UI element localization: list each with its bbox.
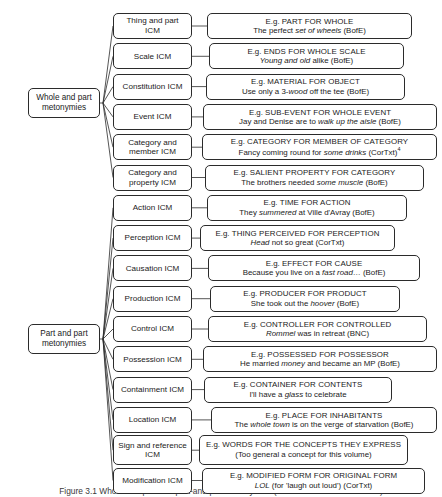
sentence-pre: The brothers needed bbox=[241, 178, 316, 187]
icm-label-line1: Possession ICM bbox=[123, 355, 181, 365]
example-node-11[interactable]: E.g. POSSESSED FOR POSSESSORHe married m… bbox=[203, 346, 437, 372]
icm-node-category-and[interactable]: Category andproperty ICM bbox=[113, 165, 192, 191]
example-prefix: E.g. bbox=[266, 17, 282, 26]
example-relation: E.g. EFFECT FOR CAUSE bbox=[266, 259, 363, 268]
example-relation-text: PLACE FOR INHABITANTS bbox=[282, 411, 383, 420]
sentence-italic: walk up the aisle bbox=[318, 117, 376, 126]
sentence-italic: fast road bbox=[322, 268, 353, 277]
icm-node-thing-and-part[interactable]: Thing and partICM bbox=[113, 13, 192, 39]
example-prefix: E.g. bbox=[231, 137, 247, 146]
root-node-whole-and-part[interactable]: Whole and partmetonymies bbox=[28, 88, 100, 118]
sentence-post: … (BofE) bbox=[353, 268, 385, 277]
icm-node-modification-icm[interactable]: Modification ICM bbox=[113, 468, 192, 494]
icm-node-causation-icm[interactable]: Causation ICM bbox=[113, 255, 192, 281]
example-node-9[interactable]: E.g. PRODUCER FOR PRODUCTShe took out th… bbox=[210, 286, 400, 312]
example-relation-text: SALIENT PROPERTY FOR CATEGORY bbox=[250, 168, 396, 177]
example-node-15[interactable]: E.g. MODIFIED FORM FOR ORIGINAL FORMLOL … bbox=[202, 468, 425, 494]
icm-label-line1: Sign and reference bbox=[118, 441, 186, 451]
sentence-italic: glass bbox=[285, 390, 303, 399]
example-sentence: Young and old alike (BofE) bbox=[260, 56, 353, 65]
sentence-italic: some drinks bbox=[324, 148, 367, 157]
example-node-7[interactable]: E.g. THING PERCEIVED FOR PERCEPTIONHead … bbox=[200, 225, 395, 251]
icm-node-location-icm[interactable]: Location ICM bbox=[113, 407, 192, 433]
icm-label-line1: Category and bbox=[128, 168, 177, 178]
icm-label-line2: member ICM bbox=[129, 147, 176, 157]
icm-node-possession-icm[interactable]: Possession ICM bbox=[113, 346, 192, 372]
icm-node-production-icm[interactable]: Production ICM bbox=[113, 286, 192, 312]
sentence-pre: They bbox=[239, 208, 259, 217]
sentence-post: not so great (CorTxt) bbox=[269, 238, 344, 247]
root-node-part-and-part[interactable]: Part and partmetonymies bbox=[28, 324, 100, 354]
icm-node-constitution-icm[interactable]: Constitution ICM bbox=[113, 74, 192, 100]
example-prefix: E.g. bbox=[264, 198, 280, 207]
example-node-3[interactable]: E.g. SUB-EVENT FOR WHOLE EVENTJay and De… bbox=[203, 104, 437, 130]
icm-node-control-icm[interactable]: Control ICM bbox=[113, 316, 192, 342]
example-relation-text: PRODUCER FOR PRODUCT bbox=[260, 289, 367, 298]
example-relation: E.g. MODIFIED FORM FOR ORIGINAL FORM bbox=[230, 471, 397, 480]
icm-node-sign-and-reference[interactable]: Sign and referenceICM bbox=[113, 435, 192, 465]
sentence-post: (BofE) bbox=[341, 26, 366, 35]
example-prefix: E.g. bbox=[234, 168, 250, 177]
example-relation: E.g. ENDS FOR WHOLE SCALE bbox=[247, 47, 365, 56]
example-relation: E.g. CATEGORY FOR MEMBER OF CATEGORY bbox=[231, 137, 408, 146]
sentence-post: (BofE) bbox=[363, 178, 388, 187]
example-prefix: E.g. bbox=[234, 380, 250, 389]
example-relation: E.g. SALIENT PROPERTY FOR CATEGORY bbox=[234, 168, 396, 177]
example-sentence: (Too general a concept for this volume) bbox=[235, 450, 371, 459]
sentence-post: alike (BofE) bbox=[310, 56, 353, 65]
sentence-italic: Rommel bbox=[266, 329, 295, 338]
icm-node-category-and[interactable]: Category andmember ICM bbox=[113, 134, 192, 160]
example-relation-text: MATERIAL FOR OBJECT bbox=[267, 77, 360, 86]
sentence-italic: summered bbox=[259, 208, 296, 217]
icm-label-line1: Perception ICM bbox=[125, 233, 181, 243]
example-node-5[interactable]: E.g. SALIENT PROPERTY FOR CATEGORYThe br… bbox=[205, 165, 424, 191]
example-relation: E.g. CONTROLLER FOR CONTROLLED bbox=[244, 320, 392, 329]
root-label-line2: metonymies bbox=[42, 103, 86, 113]
icm-node-action-icm[interactable]: Action ICM bbox=[113, 195, 192, 221]
sentence-italic: some muscle bbox=[317, 178, 363, 187]
example-prefix: E.g. bbox=[206, 440, 222, 449]
example-node-0[interactable]: E.g. PART FOR WHOLEThe perfect set of wh… bbox=[207, 13, 412, 39]
sentence-pre: Jay and Denise are to bbox=[239, 117, 318, 126]
example-relation-text: WORDS FOR THE CONCEPTS THEY EXPRESS bbox=[222, 440, 401, 449]
icm-node-containment-icm[interactable]: Containment ICM bbox=[113, 377, 192, 403]
example-sentence: He married money and became an MP (BofE) bbox=[240, 359, 400, 368]
example-prefix: E.g. bbox=[266, 259, 282, 268]
footnote-marker: 4 bbox=[397, 146, 400, 152]
icm-label-line1: Modification ICM bbox=[122, 476, 182, 486]
icm-label-line1: Thing and part bbox=[126, 16, 178, 26]
icm-node-perception-icm[interactable]: Perception ICM bbox=[113, 225, 192, 251]
example-prefix: E.g. bbox=[244, 320, 260, 329]
sentence-pre: I'll have a bbox=[249, 390, 284, 399]
example-node-2[interactable]: E.g. MATERIAL FOR OBJECTUse only a 3-woo… bbox=[206, 74, 405, 100]
example-node-4[interactable]: E.g. CATEGORY FOR MEMBER OF CATEGORYFanc… bbox=[202, 134, 437, 160]
example-node-12[interactable]: E.g. CONTAINER FOR CONTENTSI'll have a g… bbox=[204, 377, 392, 403]
example-relation: E.g. PLACE FOR INHABITANTS bbox=[266, 411, 383, 420]
root-label-line1: Part and part bbox=[40, 329, 87, 339]
sentence-italic: whole town bbox=[250, 420, 289, 429]
sentence-post: at Ville d'Avray (BofE) bbox=[296, 208, 374, 217]
icm-node-scale-icm[interactable]: Scale ICM bbox=[113, 43, 192, 69]
example-node-6[interactable]: E.g. TIME FOR ACTIONThey summered at Vil… bbox=[207, 195, 407, 221]
example-relation-text: CONTROLLER FOR CONTROLLED bbox=[260, 320, 391, 329]
example-sentence: The brothers needed some muscle (BofE) bbox=[241, 178, 388, 187]
icm-node-event-icm[interactable]: Event ICM bbox=[113, 104, 192, 130]
sentence-post: (for 'laugh out loud') (CorTxt) bbox=[270, 481, 373, 490]
example-relation-text: POSSESSED FOR POSSESSOR bbox=[267, 350, 389, 359]
icm-label-line1: Containment ICM bbox=[121, 385, 184, 395]
icm-label-line1: Constitution ICM bbox=[123, 82, 183, 92]
example-sentence: Jay and Denise are to walk up the aisle … bbox=[239, 117, 401, 126]
example-relation-text: CONTAINER FOR CONTENTS bbox=[250, 380, 363, 389]
example-prefix: E.g. bbox=[243, 289, 259, 298]
icm-label-line1: Location ICM bbox=[129, 415, 177, 425]
example-node-10[interactable]: E.g. CONTROLLER FOR CONTROLLEDRommel was… bbox=[208, 316, 427, 342]
icm-label-line2: ICM bbox=[145, 26, 160, 36]
example-relation-text: TIME FOR ACTION bbox=[280, 198, 351, 207]
example-node-13[interactable]: E.g. PLACE FOR INHABITANTSThe whole town… bbox=[211, 407, 437, 433]
example-sentence: The perfect set of wheels (BofE) bbox=[253, 26, 366, 35]
example-node-8[interactable]: E.g. EFFECT FOR CAUSEBecause you live on… bbox=[208, 255, 420, 281]
example-node-14[interactable]: E.g. WORDS FOR THE CONCEPTS THEY EXPRESS… bbox=[199, 435, 408, 465]
root-label-line2: metonymies bbox=[42, 339, 86, 349]
example-relation: E.g. TIME FOR ACTION bbox=[264, 198, 351, 207]
example-node-1[interactable]: E.g. ENDS FOR WHOLE SCALEYoung and old a… bbox=[209, 43, 404, 69]
